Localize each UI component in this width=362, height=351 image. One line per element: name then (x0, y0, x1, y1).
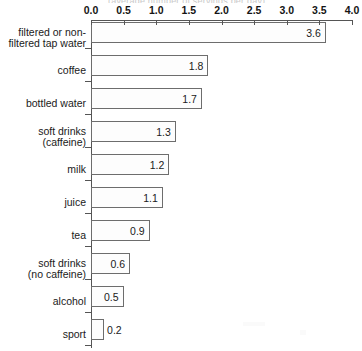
category-label: soft drinks (caffeine) (2, 126, 86, 149)
category-label: coffee (2, 65, 86, 77)
bar-value-label: 0.5 (104, 291, 123, 303)
category-label: juice (2, 197, 86, 209)
bar-value-label: 1.8 (189, 60, 208, 72)
bar: 3.6 (91, 22, 326, 43)
bar: 1.8 (91, 55, 208, 76)
bar: 0.2 (91, 319, 104, 340)
category-label: filtered or non- filtered tap water (2, 27, 86, 50)
bar-value-label: 1.3 (156, 126, 175, 138)
bar-row: sport0.2 (0, 318, 362, 351)
x-axis-tick-label: 0.5 (116, 4, 131, 16)
x-axis-tick-mark (352, 20, 353, 25)
bar-row: milk1.2 (0, 153, 362, 186)
category-label: bottled water (2, 98, 86, 110)
y-axis-tick-mark (85, 312, 91, 313)
y-axis-tick-mark (85, 213, 91, 214)
x-axis-tick-mark (156, 20, 157, 25)
bar-row: juice1.1 (0, 186, 362, 219)
bar-value-label: 1.7 (182, 93, 201, 105)
plot-area: filtered or non- filtered tap water3.6co… (0, 21, 362, 351)
y-axis-tick-mark (85, 81, 91, 82)
bar-value-label: 1.1 (143, 192, 162, 204)
category-label: milk (2, 164, 86, 176)
x-axis-tick-label: 2.5 (247, 4, 262, 16)
category-label: soft drinks (no caffeine) (2, 258, 86, 281)
x-axis-tick-mark (91, 20, 92, 25)
bar-row: filtered or non- filtered tap water3.6 (0, 21, 362, 54)
bar-value-label: 3.6 (306, 27, 325, 39)
x-axis-tick-mark (254, 20, 255, 25)
bar-row: soft drinks (caffeine)1.3 (0, 120, 362, 153)
bar: 1.3 (91, 121, 176, 142)
y-axis-tick-mark (85, 345, 91, 346)
x-axis-tick-label: 0.0 (84, 4, 99, 16)
y-axis-tick-mark (85, 180, 91, 181)
bar: 1.2 (91, 154, 169, 175)
x-axis-tick-label: 3.0 (279, 4, 294, 16)
x-axis-tick-mark (319, 20, 320, 25)
category-label: tea (2, 230, 86, 242)
y-axis-tick-mark (85, 114, 91, 115)
x-axis-tick-label: 3.5 (312, 4, 327, 16)
bar: 0.9 (91, 220, 150, 241)
y-axis-tick-mark (85, 279, 91, 280)
x-axis-tick-label: 2.0 (214, 4, 229, 16)
x-axis-tick-mark (124, 20, 125, 25)
x-axis-tick-labels: 0.00.51.01.52.02.53.03.54.0 (0, 4, 362, 17)
bar-row: bottled water1.7 (0, 87, 362, 120)
bar: 1.7 (91, 88, 202, 109)
bar: 1.1 (91, 187, 163, 208)
category-label: alcohol (2, 296, 86, 308)
x-axis-tick-label: 1.0 (149, 4, 164, 16)
x-axis-tick-mark (222, 20, 223, 25)
bar-value-label: 0.9 (130, 225, 149, 237)
bar-value-label: 0.2 (103, 324, 122, 336)
bar-row: coffee1.8 (0, 54, 362, 87)
y-axis-tick-mark (85, 246, 91, 247)
bar: 0.6 (91, 253, 130, 274)
bar-chart: (average number of servings per day) 0.0… (0, 0, 362, 351)
y-axis-tick-mark (85, 48, 91, 49)
category-label: sport (2, 329, 86, 341)
bar-row: soft drinks (no caffeine)0.6 (0, 252, 362, 285)
x-axis-tick-mark (189, 20, 190, 25)
bar-row: tea0.9 (0, 219, 362, 252)
chart-title: (average number of servings per day) (108, 0, 358, 3)
bar-value-label: 1.2 (150, 159, 169, 171)
x-axis-tick-label: 1.5 (182, 4, 197, 16)
bar-value-label: 0.6 (111, 258, 130, 270)
bar-row: alcohol0.5 (0, 285, 362, 318)
x-axis-tick-label: 4.0 (345, 4, 360, 16)
y-axis-tick-mark (85, 147, 91, 148)
x-axis-tick-mark (287, 20, 288, 25)
bar: 0.5 (91, 286, 124, 307)
